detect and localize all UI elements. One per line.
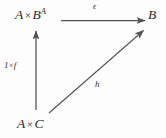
commutative-diagram: A×BA B A×C ϵ 1×f h	[0, 0, 166, 138]
h-arrow	[49, 31, 144, 114]
node-top-left-exponent: A	[41, 6, 46, 16]
node-top-left-second: B	[32, 7, 40, 22]
node-top-left-base: A	[15, 7, 23, 22]
node-bottom-left-base: A	[17, 116, 25, 131]
edge-label-f: f	[14, 60, 17, 70]
edge-label-one: 1	[4, 60, 9, 70]
node-b: B	[148, 8, 156, 22]
node-a-times-c: A×C	[17, 117, 43, 131]
edge-label-one-times-f: 1×f	[4, 61, 16, 70]
node-a-times-b-exp-a: A×BA	[15, 8, 46, 22]
node-bottom-left-second: C	[34, 116, 43, 131]
edge-label-epsilon: ϵ	[93, 3, 96, 11]
times-operator-top: ×	[23, 9, 32, 21]
times-operator-bottom: ×	[25, 118, 34, 130]
edge-label-h: h	[95, 80, 100, 89]
